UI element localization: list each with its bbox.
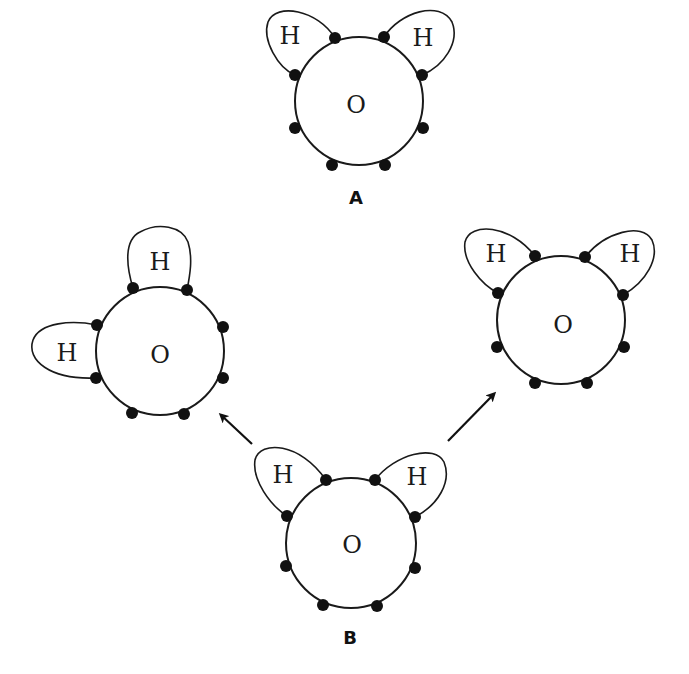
hydrogen-symbol-right: H (413, 24, 434, 52)
hydrogen-symbol-left: H (280, 22, 301, 50)
hydrogen-symbol-right: H (407, 463, 428, 491)
arrow-up-right-icon (448, 394, 494, 441)
arrow-up-left-icon (221, 415, 252, 444)
molecule-a: O H H A (267, 10, 454, 207)
hydrogen-symbol-left: H (57, 339, 78, 367)
molecule-right-product: O H H (465, 229, 655, 389)
hydrogen-symbol-right: H (620, 240, 641, 268)
panel-label-a: A (349, 187, 363, 208)
hydrogen-symbol-left: H (273, 461, 294, 489)
panel-label-b: B (343, 627, 357, 648)
oxygen-symbol: O (553, 311, 573, 339)
hydrogen-symbol-top: H (150, 248, 171, 276)
molecule-left-product: O H H (32, 227, 229, 420)
oxygen-symbol: O (342, 531, 362, 559)
reaction-arrows (221, 394, 494, 444)
oxygen-symbol: O (150, 341, 170, 369)
molecule-b: O H H B (255, 447, 447, 647)
hydrogen-symbol-left: H (486, 240, 507, 268)
oxygen-symbol: O (346, 91, 366, 119)
water-molecule-diagram: O H H A O H H (0, 0, 689, 674)
diagram-canvas: O H H A O H H (0, 0, 689, 674)
hydrogen-lobe-left (267, 11, 335, 75)
